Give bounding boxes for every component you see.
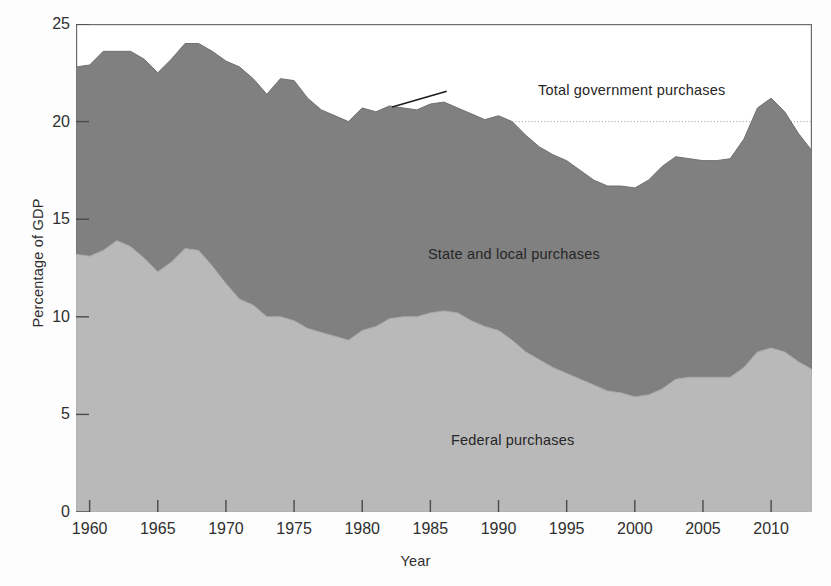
annotation-federal-purchases: Federal purchases — [451, 432, 575, 448]
plot-area: Total government purchases State and loc… — [76, 24, 812, 512]
x-tick-label: 1970 — [191, 520, 261, 538]
x-tick-label: 1995 — [532, 520, 602, 538]
annotation-state-and-local-purchases: State and local purchases — [428, 246, 600, 262]
chart-figure: Percentage of GDP 0510152025 19601965197… — [0, 0, 831, 586]
x-tick-label: 1985 — [395, 520, 465, 538]
x-tick-label: 1960 — [55, 520, 125, 538]
x-tick-label: 1965 — [123, 520, 193, 538]
x-tick-label: 1980 — [327, 520, 397, 538]
x-tick-label: 2000 — [600, 520, 670, 538]
x-tick-label: 2010 — [736, 520, 806, 538]
y-tick-label: 10 — [26, 308, 70, 326]
y-axis-tick-labels: 0510152025 — [18, 0, 70, 586]
y-tick-label: 0 — [26, 503, 70, 521]
y-tick-label: 15 — [26, 210, 70, 228]
x-tick-label: 1990 — [464, 520, 534, 538]
annotation-total-government-purchases: Total government purchases — [538, 82, 725, 98]
y-tick-label: 20 — [26, 113, 70, 131]
x-tick-label: 1975 — [259, 520, 329, 538]
y-tick-label: 5 — [26, 405, 70, 423]
x-axis-title: Year — [0, 553, 831, 569]
x-tick-label: 2005 — [668, 520, 738, 538]
y-tick-label: 25 — [26, 15, 70, 33]
